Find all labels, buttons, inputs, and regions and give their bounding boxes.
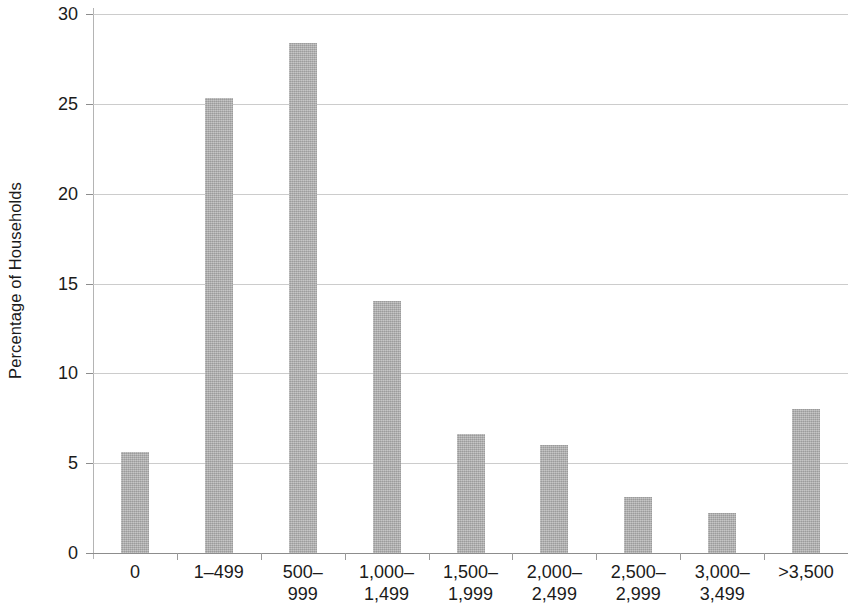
bar[interactable] [373,301,401,553]
y-tick-label: 5 [34,454,78,472]
plot-area [93,14,848,553]
x-tick-label: 1,500– 1,999 [429,561,513,605]
bar[interactable] [457,434,485,553]
x-tick [429,553,430,560]
x-tick [177,553,178,560]
bar[interactable] [708,513,736,553]
x-tick [261,553,262,560]
bar[interactable] [289,43,317,553]
bar[interactable] [624,497,652,553]
x-tick-label: >3,500 [764,561,848,583]
bar-chart: Percentage of Households 051015202530 01… [0,0,848,606]
y-tick-label: 0 [34,544,78,562]
x-tick-label: 1–499 [177,561,261,583]
bar[interactable] [205,98,233,553]
y-axis-title-text: Percentage of Households [6,182,25,379]
y-axis-title: Percentage of Households [0,0,30,560]
y-tick-label: 20 [34,185,78,203]
bar[interactable] [792,409,820,553]
y-tick-label: 10 [34,364,78,382]
x-axis-line [93,553,848,554]
y-tick-label: 30 [34,5,78,23]
y-tick-label: 25 [34,95,78,113]
x-tick-label: 500– 999 [261,561,345,605]
x-tick [680,553,681,560]
x-tick-label: 1,000– 1,499 [345,561,429,605]
x-tick-label: 2,000– 2,499 [512,561,596,605]
x-tick [596,553,597,560]
y-tick-label: 15 [34,275,78,293]
bar[interactable] [121,452,149,553]
bar[interactable] [540,445,568,553]
x-tick-label: 0 [93,561,177,583]
x-tick-label: 2,500– 2,999 [596,561,680,605]
x-tick [345,553,346,560]
x-tick [764,553,765,560]
x-tick [512,553,513,560]
x-tick-label: 3,000– 3,499 [680,561,764,605]
gridline-30 [93,14,848,15]
